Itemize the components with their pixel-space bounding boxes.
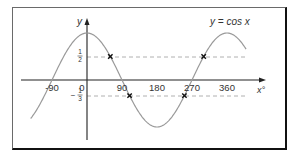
x-tick-label: 90	[117, 82, 128, 93]
svg-text:1: 1	[78, 87, 82, 94]
y-tick-neg-third: − 1 3	[71, 87, 83, 102]
y-tick-half: 1 2	[78, 48, 83, 63]
x-axis-label: x°	[256, 85, 266, 95]
x-axis-arrow-icon	[259, 78, 266, 83]
x-tick-label: 360	[219, 82, 235, 93]
cosine-chart: y y = cos x x° -90090180270360 1 2 − 1 3	[0, 0, 298, 159]
curve-label: y = cos x	[209, 16, 251, 27]
y-axis-arrow-icon	[85, 18, 90, 25]
y-axis-label: y	[76, 16, 83, 27]
x-tick-label: -90	[45, 82, 59, 93]
svg-text:3: 3	[78, 95, 82, 102]
x-tick-label: 180	[149, 82, 165, 93]
svg-text:2: 2	[78, 56, 82, 63]
svg-text:1: 1	[78, 48, 82, 55]
svg-text:−: −	[71, 91, 76, 100]
x-tick-label: 270	[184, 82, 200, 93]
